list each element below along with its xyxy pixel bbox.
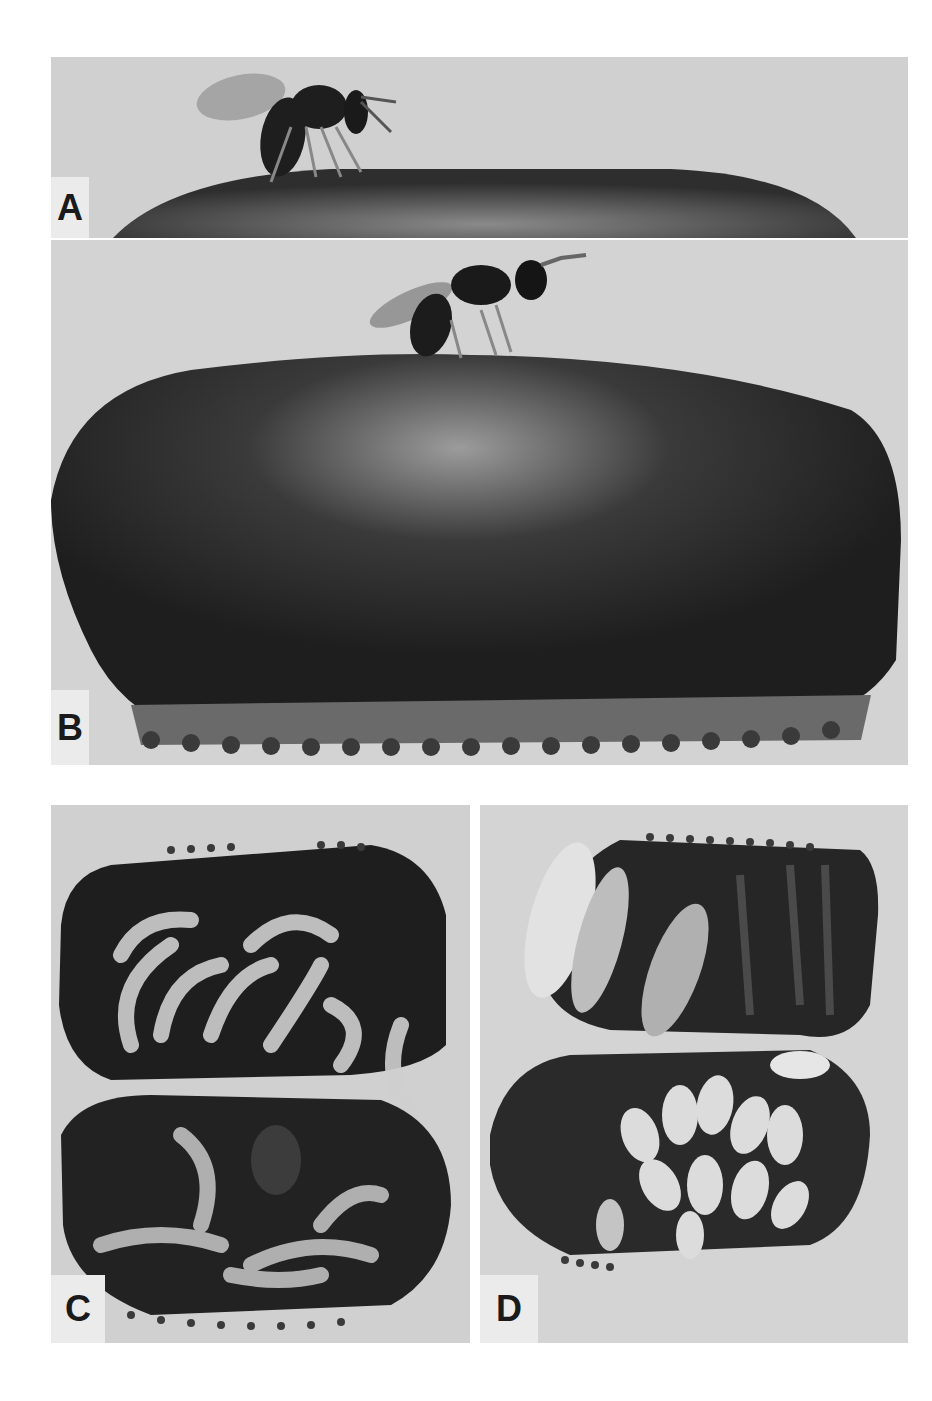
panel-a: A [51,57,908,238]
panel-d: D [480,805,908,1343]
wasp-on-egg-case-photo-a [51,57,908,238]
panel-label-d: D [480,1275,538,1343]
opened-egg-case-larvae-photo [51,805,470,1343]
panel-c: C [51,805,470,1343]
panel-b: B [51,240,908,765]
opened-egg-case-pupae-photo [480,805,908,1343]
panel-label-c: C [51,1275,105,1343]
panel-label-b: B [51,690,89,765]
panel-label-a: A [51,177,89,238]
wasp-on-egg-case-photo-b [51,240,908,765]
